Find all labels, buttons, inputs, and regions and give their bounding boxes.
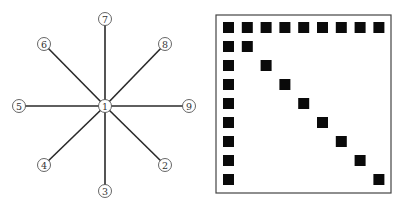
nonzero-cell-1-9	[373, 22, 384, 33]
nonzero-cell-9-1	[223, 174, 234, 185]
nonzero-cell-1-2	[242, 22, 253, 33]
nonzero-cell-7-1	[223, 136, 234, 147]
nonzero-cell-1-8	[355, 22, 366, 33]
nonzero-cell-4-1	[223, 79, 234, 90]
nonzero-cell-8-8	[355, 155, 366, 166]
nonzero-cell-1-1	[223, 22, 234, 33]
nonzero-cell-7-7	[336, 136, 347, 147]
nonzero-cell-1-6	[317, 22, 328, 33]
nonzero-cell-2-1	[223, 41, 234, 52]
nonzero-cell-9-9	[373, 174, 384, 185]
nonzero-cell-5-1	[223, 98, 234, 109]
nonzero-cell-1-7	[336, 22, 347, 33]
nonzero-cell-3-3	[261, 60, 272, 71]
nonzero-cell-1-3	[261, 22, 272, 33]
nonzero-cell-6-1	[223, 117, 234, 128]
nonzero-cell-1-4	[279, 22, 290, 33]
nonzero-cell-8-1	[223, 155, 234, 166]
nonzero-cell-1-5	[298, 22, 309, 33]
nonzero-cell-3-1	[223, 60, 234, 71]
nonzero-cell-5-5	[298, 98, 309, 109]
nonzero-cell-2-2	[242, 41, 253, 52]
nonzero-cell-4-4	[279, 79, 290, 90]
nonzero-cell-6-6	[317, 117, 328, 128]
arrowhead-sparsity-matrix	[0, 0, 406, 205]
